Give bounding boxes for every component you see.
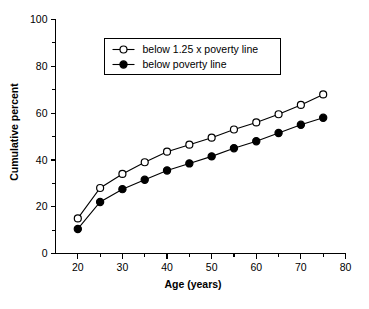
data-point-marker xyxy=(253,138,260,145)
data-point-marker xyxy=(119,186,126,193)
y-axis-title: Cumulative percent xyxy=(8,83,20,181)
data-point-marker xyxy=(230,145,237,152)
data-point-marker xyxy=(208,134,215,141)
data-point-marker xyxy=(163,167,170,174)
y-axis-tick-label: 20 xyxy=(36,200,48,212)
legend-label: below 1.25 x poverty line xyxy=(143,43,259,55)
data-point-marker xyxy=(275,129,282,136)
y-axis-tick-label: 80 xyxy=(36,60,48,72)
data-point-marker xyxy=(97,184,104,191)
y-axis-tick-label: 60 xyxy=(36,107,48,119)
x-axis-tick-label: 50 xyxy=(206,261,218,273)
y-axis-tick-label: 0 xyxy=(42,247,48,259)
data-point-marker xyxy=(141,176,148,183)
data-point-marker xyxy=(297,121,304,128)
data-point-marker xyxy=(74,215,81,222)
legend[interactable]: below 1.25 x poverty linebelow poverty l… xyxy=(105,39,281,75)
data-point-marker xyxy=(164,148,171,155)
x-axis-tick-label: 30 xyxy=(117,261,129,273)
x-axis-tick-label: 20 xyxy=(72,261,84,273)
x-axis-tick-label: 60 xyxy=(250,261,262,273)
data-point-marker xyxy=(119,170,126,177)
legend-filled-circle-icon xyxy=(120,61,127,68)
data-point-marker xyxy=(320,114,327,121)
data-point-marker xyxy=(141,159,148,166)
y-axis-tick-label: 100 xyxy=(30,13,48,25)
chart-page: 02040608010020304050607080 below 1.25 x … xyxy=(0,0,369,309)
data-point-marker xyxy=(186,160,193,167)
data-point-marker xyxy=(230,126,237,133)
legend-label: below poverty line xyxy=(143,58,227,70)
data-point-marker xyxy=(297,101,304,108)
data-point-marker xyxy=(97,198,104,205)
x-axis-tick-label: 80 xyxy=(340,261,352,273)
x-axis-title: Age (years) xyxy=(164,278,221,290)
legend-open-circle-icon xyxy=(120,46,127,53)
cumulative-percent-line-chart: 02040608010020304050607080 below 1.25 x … xyxy=(0,0,369,309)
data-point-marker xyxy=(74,225,81,232)
x-axis-tick-label: 40 xyxy=(161,261,173,273)
data-point-marker xyxy=(320,91,327,98)
data-point-marker xyxy=(275,111,282,118)
data-point-marker xyxy=(186,141,193,148)
data-point-marker xyxy=(253,119,260,126)
y-axis-tick-label: 40 xyxy=(36,154,48,166)
data-point-marker xyxy=(208,153,215,160)
x-axis-tick-label: 70 xyxy=(295,261,307,273)
